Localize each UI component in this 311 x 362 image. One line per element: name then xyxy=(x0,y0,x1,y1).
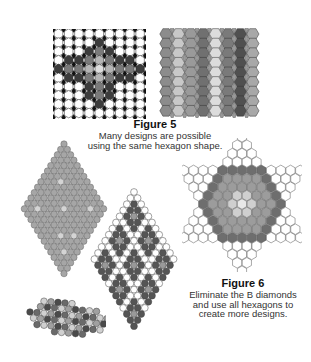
figure6-small-band xyxy=(24,295,106,347)
figure6-caption-line: create more designs. xyxy=(182,309,304,319)
figure5-left-grid xyxy=(53,29,146,119)
figure6-title: Figure 6 xyxy=(182,278,304,290)
figure5-title: Figure 5 xyxy=(60,119,250,131)
figure5-right-grid xyxy=(159,28,263,118)
figure6-caption: Figure 6 Eliminate the B diamonds and us… xyxy=(182,278,304,319)
figure6-star xyxy=(182,138,302,272)
